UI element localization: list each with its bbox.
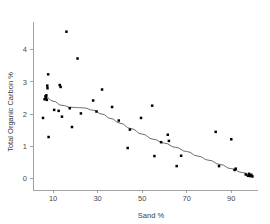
data-point bbox=[76, 57, 79, 60]
data-point bbox=[57, 110, 60, 113]
x-tick-label: 90 bbox=[227, 194, 235, 203]
data-point bbox=[80, 112, 83, 115]
x-tick-label: 10 bbox=[49, 194, 57, 203]
x-tick-label: 50 bbox=[138, 194, 146, 203]
trend-line bbox=[45, 96, 252, 175]
data-point bbox=[151, 104, 154, 107]
data-point bbox=[251, 175, 254, 178]
data-point bbox=[167, 134, 170, 137]
data-points bbox=[42, 30, 254, 177]
data-point bbox=[248, 173, 251, 176]
chart-canvas: 012341030507090 Sand % Total Organic Car… bbox=[0, 0, 270, 224]
data-point bbox=[46, 87, 49, 90]
tick-marks bbox=[30, 49, 231, 193]
data-point bbox=[111, 106, 114, 109]
data-point bbox=[175, 165, 178, 168]
data-point bbox=[53, 109, 56, 112]
y-tick-label: 3 bbox=[23, 78, 27, 87]
loess-trend-path bbox=[45, 96, 252, 175]
data-point bbox=[214, 131, 217, 134]
x-tick-label: 70 bbox=[183, 194, 191, 203]
data-point bbox=[230, 138, 233, 141]
data-point bbox=[42, 117, 45, 120]
tick-labels: 012341030507090 bbox=[23, 45, 236, 203]
data-point bbox=[59, 86, 62, 89]
data-point bbox=[180, 155, 183, 158]
x-axis-title: Sand % bbox=[138, 211, 165, 220]
data-point bbox=[47, 136, 50, 139]
data-point bbox=[140, 117, 143, 120]
data-point bbox=[95, 110, 98, 113]
data-point bbox=[168, 140, 171, 143]
y-axis-title: Total Organic Carbon % bbox=[6, 72, 15, 152]
data-point bbox=[65, 30, 68, 33]
data-point bbox=[45, 94, 48, 97]
data-point bbox=[153, 155, 156, 158]
data-point bbox=[129, 128, 132, 131]
data-point bbox=[218, 165, 221, 168]
data-point bbox=[245, 173, 248, 176]
data-point bbox=[234, 167, 237, 170]
data-point bbox=[61, 115, 64, 118]
data-point bbox=[101, 88, 104, 91]
data-point bbox=[160, 141, 163, 144]
y-tick-label: 0 bbox=[23, 174, 27, 183]
data-point bbox=[118, 119, 121, 122]
x-tick-label: 30 bbox=[93, 194, 101, 203]
data-point bbox=[92, 99, 95, 102]
data-point bbox=[46, 84, 49, 87]
y-tick-label: 2 bbox=[23, 110, 27, 119]
data-point bbox=[69, 107, 72, 110]
data-point bbox=[46, 99, 49, 102]
scatter-plot-figure: 012341030507090 Sand % Total Organic Car… bbox=[0, 0, 270, 224]
data-point bbox=[47, 73, 50, 76]
data-point bbox=[126, 147, 128, 150]
y-tick-label: 4 bbox=[23, 45, 27, 54]
data-point bbox=[71, 126, 74, 129]
y-tick-label: 1 bbox=[23, 142, 27, 151]
